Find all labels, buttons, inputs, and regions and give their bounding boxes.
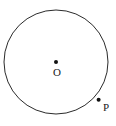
center-point-dot — [54, 60, 58, 64]
perimeter-point-label: P — [103, 102, 109, 113]
perimeter-point-dot — [97, 98, 101, 102]
center-point-label: O — [53, 67, 61, 78]
circle-diagram-canvas — [0, 0, 116, 126]
geometry-figure: O P — [0, 0, 116, 126]
